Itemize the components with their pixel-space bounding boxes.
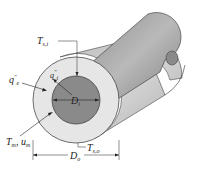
inner-tube-end xyxy=(166,51,178,65)
label-inner-diameter: Di xyxy=(71,96,80,107)
label-surface-temp-inner: Ts,i xyxy=(37,36,48,47)
label-heat-flux-outer: q"e xyxy=(9,74,19,86)
label-surface-temp-outer: Ts,o xyxy=(87,143,99,154)
label-heat-flux-inner: q"i xyxy=(50,69,58,81)
label-outer-diameter: Do xyxy=(70,151,80,162)
annulus-diagram: Ts,i q"e q"i Di Tm, um Ts,o Do xyxy=(0,0,200,170)
label-mean-temp-velocity: Tm, um xyxy=(6,137,30,148)
